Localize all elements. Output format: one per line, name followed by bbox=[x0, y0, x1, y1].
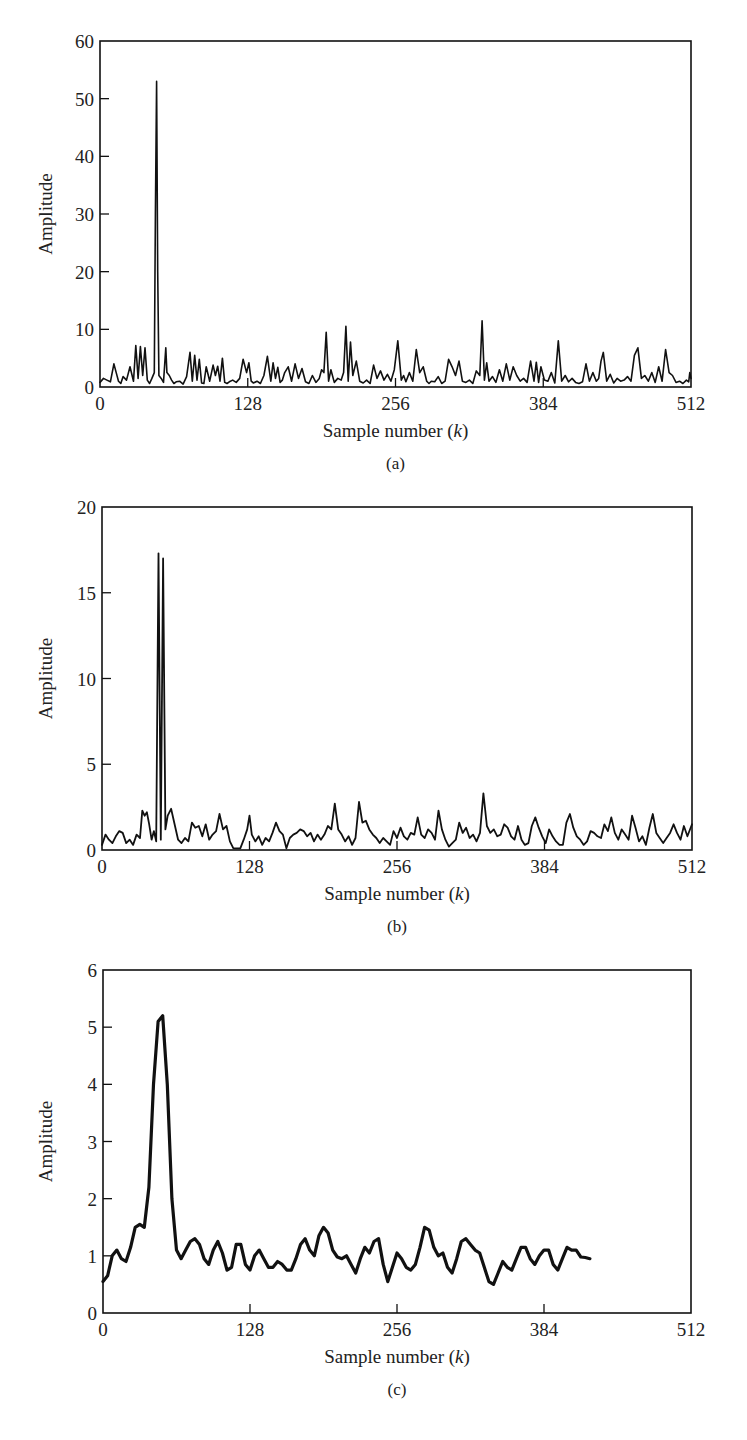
chart-panel-c: 01234560128256384512AmplitudeSample numb… bbox=[0, 0, 747, 1440]
panel-caption: (c) bbox=[388, 1380, 407, 1399]
y-tick-label: 1 bbox=[88, 1246, 98, 1267]
chart-c-svg: 01234560128256384512AmplitudeSample numb… bbox=[0, 0, 747, 1440]
y-tick-label: 2 bbox=[88, 1189, 98, 1210]
y-tick-label: 5 bbox=[88, 1017, 98, 1038]
y-axis-title: Amplitude bbox=[35, 1101, 56, 1182]
y-tick-label: 0 bbox=[88, 1303, 98, 1324]
x-tick-label: 512 bbox=[677, 1319, 706, 1340]
x-tick-label: 256 bbox=[383, 1319, 412, 1340]
x-tick-label: 384 bbox=[530, 1319, 559, 1340]
y-tick-label: 6 bbox=[88, 960, 98, 981]
y-tick-label: 4 bbox=[88, 1074, 98, 1095]
plot-frame bbox=[103, 970, 691, 1313]
data-series-line bbox=[103, 1016, 590, 1285]
x-axis-title: Sample number (k) bbox=[324, 1346, 470, 1368]
y-tick-label: 3 bbox=[88, 1132, 98, 1153]
x-tick-label: 0 bbox=[98, 1319, 108, 1340]
x-tick-label: 128 bbox=[236, 1319, 265, 1340]
